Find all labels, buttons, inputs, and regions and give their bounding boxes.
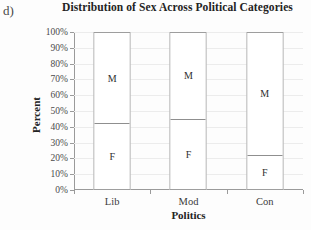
stacked-bar[interactable]: MF <box>94 32 131 190</box>
y-axis-tick-label: 40% <box>51 122 68 132</box>
x-axis-title: Politics <box>74 209 303 221</box>
y-axis-tick-label: 60% <box>51 90 68 100</box>
y-axis-tick-label: 10% <box>51 169 68 179</box>
x-axis-tick <box>74 190 75 194</box>
bar-segment-label: M <box>260 88 269 99</box>
y-axis-tick-label: 80% <box>51 59 68 69</box>
bar-segment-label: M <box>184 70 193 81</box>
y-axis-tick-label: 50% <box>51 106 68 116</box>
stacked-bar[interactable]: MF <box>246 32 283 190</box>
bar-group: MFMod <box>150 32 226 190</box>
bar-segment-label: M <box>108 73 117 84</box>
bar-segment-male[interactable]: M <box>171 33 206 119</box>
bar-segment-female[interactable]: F <box>247 155 282 189</box>
x-axis-tick-label: Lib <box>105 196 120 207</box>
bar-segment-male[interactable]: M <box>95 33 130 123</box>
bar-segment-label: F <box>186 149 192 160</box>
x-axis-tick <box>227 190 228 194</box>
x-axis-tick-label: Mod <box>179 196 199 207</box>
y-axis-title: Percent <box>30 97 42 133</box>
stacked-bar[interactable]: MF <box>170 32 207 190</box>
x-axis-tick <box>303 190 304 194</box>
bar-segment-label: F <box>109 151 115 162</box>
bar-segment-female[interactable]: F <box>95 123 130 189</box>
y-axis-tick-label: 90% <box>51 43 68 53</box>
plot-area: 0%10%20%30%40%50%60%70%80%90%100% MFLibM… <box>74 32 303 190</box>
panel-label: d) <box>3 3 14 19</box>
x-axis-tick <box>150 190 151 194</box>
y-axis-tick-label: 0% <box>55 185 68 195</box>
chart-title: Distribution of Sex Across Political Cat… <box>62 1 293 13</box>
y-axis-tick-label: 100% <box>46 27 68 37</box>
bar-group: MFCon <box>227 32 303 190</box>
y-axis-tick-label: 30% <box>51 138 68 148</box>
y-axis-tick-label: 20% <box>51 153 68 163</box>
y-axis-tick-label: 70% <box>51 74 68 84</box>
bar-segment-female[interactable]: F <box>171 119 206 189</box>
bar-group: MFLib <box>74 32 150 190</box>
bar-segment-label: F <box>262 167 268 178</box>
x-axis-tick-label: Con <box>256 196 274 207</box>
bar-segment-male[interactable]: M <box>247 33 282 155</box>
